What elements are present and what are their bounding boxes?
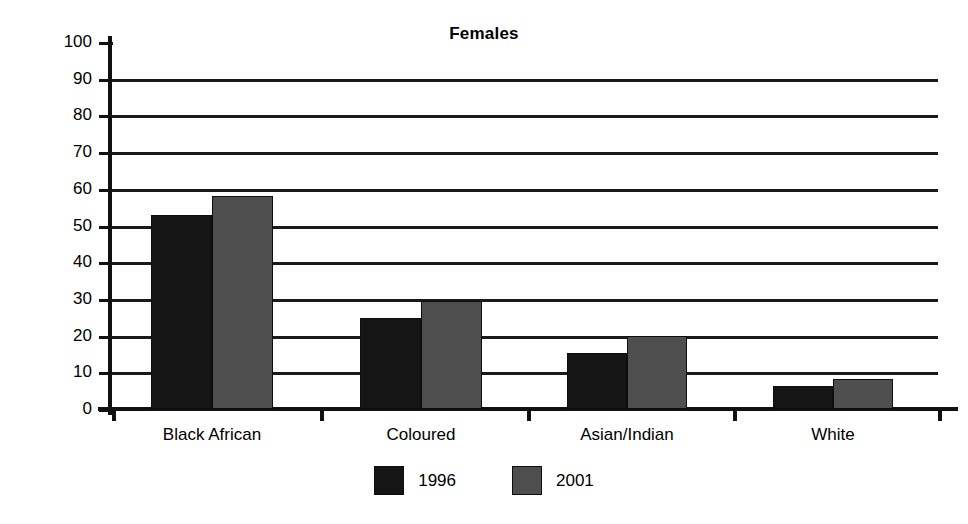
y-tick-mark [99,42,113,45]
y-tick-mark [99,336,113,339]
y-tick-label-text: 100 [40,33,92,50]
y-tick-label-text: 80 [40,106,92,123]
x-tick-mark [112,408,116,421]
legend-label-1996: 1996 [418,472,456,489]
chart-title: Females [0,24,968,44]
y-tick-label-text: 50 [40,217,92,234]
y-tick-mark [99,299,113,302]
y-tick-label: 100 [34,33,92,51]
legend-swatch-2001 [512,466,542,495]
y-tick-label-text: 70 [40,143,92,160]
y-tick-mark [99,372,113,375]
bar-white-2001 [833,379,893,409]
x-category-label: White [723,424,943,446]
y-tick-label: 20 [34,327,92,345]
y-tick-label-text: 40 [40,253,92,270]
chart-legend: 19962001 [0,466,968,495]
y-tick-mark [99,262,113,265]
legend-label-2001: 2001 [556,472,594,489]
y-tick-label: 10 [34,363,92,381]
legend-item-2001[interactable]: 2001 [512,466,594,495]
bar-white-1996 [773,386,833,409]
bar-asian-indian-2001 [627,336,687,409]
y-tick-label-text: 20 [40,327,92,344]
y-tick-label: 30 [34,290,92,308]
x-tick-mark [733,408,737,421]
y-tick-label-text: 10 [40,363,92,380]
y-tick-label: 60 [34,180,92,198]
y-tick-mark [99,79,113,82]
x-tick-mark [938,408,942,421]
bar-coloured-1996 [360,318,421,409]
bars-layer [112,42,938,409]
x-category-label: Black African [102,424,322,446]
y-tick-label-text: 30 [40,290,92,307]
bar-black-african-2001 [212,196,273,409]
y-tick-label: 90 [34,70,92,88]
bar-asian-indian-1996 [567,353,627,409]
y-tick-label-text: 60 [40,180,92,197]
y-tick-label: 80 [34,106,92,124]
bar-chart: Females % unemployed 1009080706050403020… [0,0,968,524]
y-tick-label-text: 0 [40,400,92,417]
x-category-label: Coloured [311,424,531,446]
x-category-label: Asian/Indian [517,424,737,446]
bar-coloured-2001 [421,301,482,409]
legend-item-1996[interactable]: 1996 [374,466,456,495]
y-tick-label: 70 [34,143,92,161]
y-tick-mark [99,152,113,155]
y-tick-label: 40 [34,253,92,271]
y-tick-mark [99,189,113,192]
x-tick-mark [527,408,531,421]
y-tick-label: 50 [34,217,92,235]
legend-swatch-1996 [374,466,404,495]
y-tick-mark [99,226,113,229]
y-tick-mark [99,115,113,118]
bar-black-african-1996 [151,215,212,410]
x-tick-mark [320,408,324,421]
y-tick-label-text: 90 [40,70,92,87]
y-tick-mark [99,409,113,412]
y-tick-label: 0 [34,400,92,418]
